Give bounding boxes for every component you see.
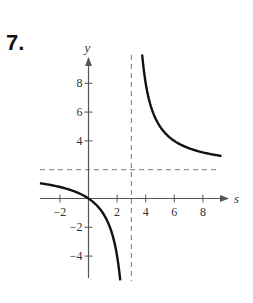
y-axis-label: y: [83, 40, 91, 55]
y-tick-label: 4: [77, 134, 83, 148]
asymptote-lines: [40, 55, 218, 281]
graph: sy −22468−4−2468: [0, 0, 253, 303]
x-axis-label: s: [234, 191, 239, 206]
y-tick-label: 6: [77, 105, 83, 119]
x-tick-label: −2: [54, 205, 67, 219]
x-tick-label: 2: [114, 205, 120, 219]
x-tick-label: 6: [171, 205, 177, 219]
function-curves: [40, 55, 222, 281]
x-tick-label: 4: [143, 205, 149, 219]
curve-right-branch: [142, 55, 221, 156]
y-tick-label: −2: [70, 220, 83, 234]
y-tick-label: −4: [70, 249, 83, 263]
y-tick-label: 8: [77, 76, 83, 90]
axes: sy: [40, 40, 239, 278]
x-tick-label: 8: [200, 205, 206, 219]
